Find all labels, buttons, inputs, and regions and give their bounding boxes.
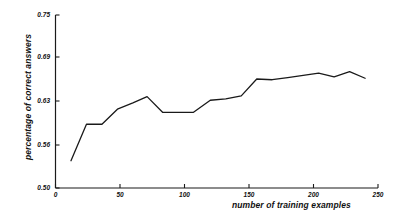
data-series-line: [71, 72, 365, 161]
axis-tick-marks: [56, 15, 379, 188]
plot-area: [0, 0, 402, 218]
figure: percentage of correct answers number of …: [0, 0, 402, 218]
axis-spines: [56, 15, 379, 188]
